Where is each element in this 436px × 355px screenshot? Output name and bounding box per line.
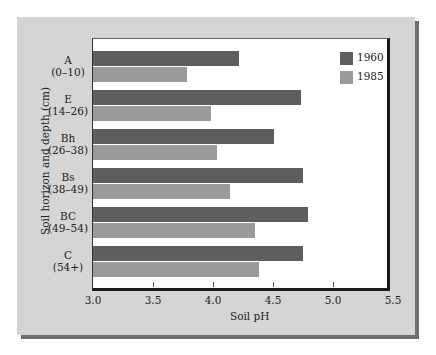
- bar-bc-1960: [93, 207, 308, 222]
- y-tick-label-e: E(14–26): [38, 93, 98, 117]
- depth-label: (0–10): [38, 66, 98, 78]
- bar-e-1960: [93, 90, 301, 105]
- y-tick-label-a: A(0–10): [38, 54, 98, 78]
- x-tick-label: 3.5: [138, 294, 168, 306]
- bar-c-1960: [93, 246, 303, 261]
- bar-a-1985: [93, 67, 187, 82]
- x-tick-mark: [333, 282, 334, 287]
- legend-swatch-1985: [340, 71, 353, 84]
- bar-a-1960: [93, 51, 239, 66]
- x-tick-label: 5.0: [318, 294, 348, 306]
- horizon-label: C: [38, 249, 98, 261]
- bar-bh-1985: [93, 145, 217, 160]
- legend-label-1985: 1985: [357, 70, 384, 82]
- x-tick-mark: [153, 282, 154, 287]
- x-tick-mark: [273, 282, 274, 287]
- legend-label-1960: 1960: [357, 51, 384, 63]
- depth-label: (49–54): [38, 222, 98, 234]
- y-tick-label-c: C(54+): [38, 249, 98, 273]
- x-tick-label: 5.5: [378, 294, 408, 306]
- bar-bs-1960: [93, 168, 303, 183]
- y-tick-label-bh: Bh(26–38): [38, 132, 98, 156]
- depth-label: (54+): [38, 261, 98, 273]
- depth-label: (38–49): [38, 183, 98, 195]
- bar-e-1985: [93, 106, 211, 121]
- y-tick-label-bc: BC(49–54): [38, 210, 98, 234]
- x-axis-title: Soil pH: [230, 310, 269, 322]
- bar-bh-1960: [93, 129, 274, 144]
- bar-bc-1985: [93, 223, 255, 238]
- legend-swatch-1960: [340, 52, 353, 65]
- x-tick-label: 3.0: [78, 294, 108, 306]
- x-tick-mark: [213, 282, 214, 287]
- bar-c-1985: [93, 262, 259, 277]
- horizon-label: E: [38, 93, 98, 105]
- bar-bs-1985: [93, 184, 230, 199]
- horizon-label: BC: [38, 210, 98, 222]
- horizon-label: Bs: [38, 171, 98, 183]
- horizon-label: A: [38, 54, 98, 66]
- x-tick-label: 4.5: [258, 294, 288, 306]
- depth-label: (26–38): [38, 144, 98, 156]
- x-tick-label: 4.0: [198, 294, 228, 306]
- y-tick-label-bs: Bs(38–49): [38, 171, 98, 195]
- depth-label: (14–26): [38, 105, 98, 117]
- horizon-label: Bh: [38, 132, 98, 144]
